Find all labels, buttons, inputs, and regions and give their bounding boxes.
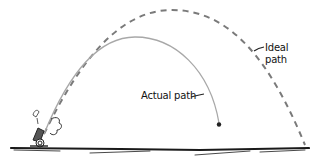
- ideal-path: [44, 10, 305, 145]
- ideal-label-leader: [254, 47, 264, 51]
- cannonball: [217, 122, 221, 126]
- trajectory-diagram: [0, 0, 310, 167]
- ideal-path-label-line1: Ideal: [265, 43, 288, 53]
- boom-text-icon: [33, 110, 39, 124]
- ground: [11, 148, 309, 155]
- ideal-path-label-line2: path: [265, 55, 287, 65]
- actual-path-label: Actual path: [141, 91, 196, 101]
